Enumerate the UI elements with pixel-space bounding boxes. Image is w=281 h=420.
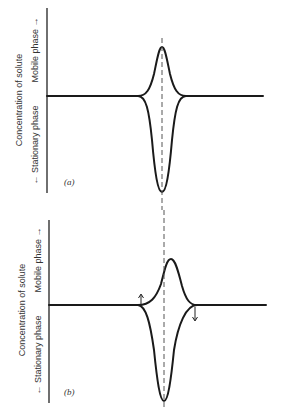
panel-label-b: (b): [64, 387, 75, 397]
stationary-phase-curve-b: [138, 305, 197, 401]
panel-b: Concentration of solute Mobile phase → ←…: [17, 210, 266, 410]
chromatography-diagram: Concentration of solute Mobile phase → ←…: [0, 0, 281, 420]
down-arrow-icon: [193, 307, 198, 321]
stationary-phase-label-b: ← Stationary phase: [33, 315, 43, 394]
mobile-phase-label-a: Mobile phase →: [30, 17, 40, 82]
panel-a: Concentration of solute Mobile phase → ←…: [14, 8, 263, 210]
y-axis-title-a: Concentration of solute: [14, 54, 24, 147]
mobile-phase-curve-b: [49, 259, 266, 305]
stationary-phase-label-a: ← Stationary phase: [30, 105, 40, 184]
mobile-phase-label-b: Mobile phase →: [33, 227, 43, 292]
panel-label-a: (a): [64, 177, 75, 187]
y-axis-title-b: Concentration of solute: [17, 264, 27, 357]
mobile-phase-curve-a: [47, 47, 263, 96]
